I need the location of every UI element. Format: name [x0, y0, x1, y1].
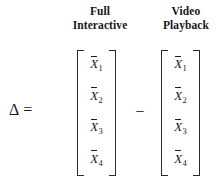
equation-left-hand-side: Δ=: [9, 101, 32, 119]
matrix-left-bracket: [161, 50, 168, 176]
minus-operator: −: [128, 103, 152, 121]
variable-subscript: 2: [183, 95, 187, 105]
matrix-cell: X4: [90, 150, 103, 171]
matrix-left-bracket: [77, 50, 84, 176]
variable-subscript: 2: [99, 95, 103, 105]
column-header-video-playback: Video Playback: [138, 5, 220, 32]
column-header-line-1: Full: [52, 5, 148, 19]
variable-mean-symbol: X: [174, 87, 182, 103]
variable-subscript: 3: [99, 126, 103, 136]
matrix-cell: X2: [90, 87, 103, 108]
matrix-cell: X4: [174, 150, 187, 171]
column-header-line-2: Playback: [138, 19, 220, 33]
variable-subscript: 1: [183, 63, 187, 73]
variable-mean-symbol: X: [90, 87, 98, 103]
matrix-cell: X3: [174, 118, 187, 139]
matrix-video-playback: X1 X2 X3 X4: [161, 50, 200, 176]
matrix-right-bracket: [193, 50, 200, 176]
column-header-line-2: Interactive: [52, 19, 148, 33]
variable-subscript: 1: [99, 63, 103, 73]
variable-mean-symbol: X: [174, 55, 182, 71]
equals-symbol: =: [23, 101, 32, 118]
variable-mean-symbol: X: [90, 118, 98, 134]
matrix-cell: X2: [174, 87, 187, 108]
column-header-full-interactive: Full Interactive: [52, 5, 148, 32]
matrix-body: X1 X2 X3 X4: [84, 50, 109, 176]
matrix-right-bracket: [109, 50, 116, 176]
matrix-full-interactive: X1 X2 X3 X4: [77, 50, 116, 176]
matrix-cell: X1: [90, 55, 103, 76]
matrix-body: X1 X2 X3 X4: [168, 50, 193, 176]
column-header-line-1: Video: [138, 5, 220, 19]
variable-mean-symbol: X: [174, 118, 182, 134]
variable-subscript: 4: [99, 158, 103, 168]
matrix-cell: X3: [90, 118, 103, 139]
variable-mean-symbol: X: [90, 150, 98, 166]
delta-symbol: Δ: [9, 101, 19, 118]
variable-mean-symbol: X: [174, 150, 182, 166]
variable-subscript: 4: [183, 158, 187, 168]
variable-mean-symbol: X: [90, 55, 98, 71]
equation-figure: Full Interactive Video Playback Δ= X1 X2…: [0, 0, 220, 184]
variable-subscript: 3: [183, 126, 187, 136]
matrix-cell: X1: [174, 55, 187, 76]
